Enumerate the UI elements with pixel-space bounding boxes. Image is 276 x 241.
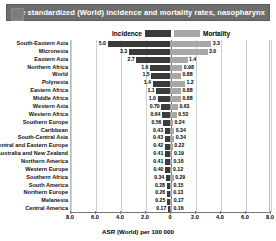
incidence-bar [156, 88, 170, 94]
mortality-value-label: 1.2 [187, 79, 194, 87]
mortality-value-label: 0.34 [176, 127, 186, 135]
incidence-value-label: 0.25 [155, 197, 165, 205]
bar-row: Northern Europe0.260.13 [0, 189, 276, 197]
mortality-bar [170, 49, 208, 55]
mortality-bar [170, 81, 185, 87]
incidence-bar [162, 112, 170, 118]
tick-label: 2.0 [141, 214, 149, 220]
tick-label: 0 [168, 214, 171, 220]
mortality-value-label: 0.16 [174, 205, 184, 213]
bar-row: Western Africa0.640.53 [0, 111, 276, 119]
mortality-value-label: 0.16 [174, 158, 184, 166]
bar-row: Melanesia0.250.17 [0, 197, 276, 205]
mortality-bar [170, 175, 174, 181]
bar-row: South-Central Asia0.430.34 [0, 134, 276, 142]
legend-label-mortality: Mortality [203, 30, 230, 37]
incidence-bar [150, 65, 170, 71]
mortality-bar [170, 159, 172, 165]
mortality-bar [170, 57, 188, 63]
mortality-bar [170, 41, 211, 47]
bar-row: Northern Africa1.60.98 [0, 64, 276, 72]
incidence-value-label: 0.42 [153, 142, 163, 150]
incidence-bar [129, 49, 170, 55]
mortality-value-label: 0.88 [183, 87, 193, 95]
category-label: Eastern Africa [0, 87, 68, 95]
incidence-value-label: 0.28 [155, 182, 165, 190]
bar-row: Caribbean0.430.34 [0, 127, 276, 135]
bar-row: Polynesia1.41.2 [0, 79, 276, 87]
bar-row: Western Asia0.700.63 [0, 103, 276, 111]
mortality-value-label: 0.98 [184, 64, 194, 72]
category-label: Australia and New Zealand [0, 150, 68, 158]
incidence-bar [153, 81, 171, 87]
incidence-value-label: 1.0 [149, 95, 156, 103]
incidence-bar [108, 41, 171, 47]
category-label: Southern Africa [0, 174, 68, 182]
incidence-value-label: 0.41 [153, 150, 163, 158]
tick-label: 6.0 [241, 214, 249, 220]
legend-label-incidence: Incidence [112, 30, 142, 37]
mortality-bar [170, 167, 172, 173]
bar-row: Central and Eastern Europe0.420.22 [0, 142, 276, 150]
incidence-bar [151, 73, 170, 79]
mortality-value-label: 0.63 [179, 103, 189, 111]
incidence-value-label: 1.5 [143, 71, 150, 79]
mortality-bar [170, 120, 173, 126]
category-label: Middle Africa [0, 95, 68, 103]
bar-row: Southern Europe0.560.24 [0, 119, 276, 127]
incidence-value-label: 1.6 [141, 64, 148, 72]
bar-row: Western Europe0.400.12 [0, 166, 276, 174]
mortality-bar [170, 104, 178, 110]
x-axis-title: ASR (World) per 100 000 [0, 228, 276, 235]
mortality-value-label: 3.0 [209, 48, 216, 56]
category-label: South America [0, 182, 68, 190]
legend-swatch-mortality [174, 30, 200, 37]
incidence-value-label: 0.17 [156, 205, 166, 213]
bar-row: Southern Africa0.340.29 [0, 174, 276, 182]
incidence-value-label: 0.34 [154, 174, 164, 182]
bar-row: South-Eastern Asia5.03.3 [0, 40, 276, 48]
category-label: World [0, 71, 68, 79]
incidence-value-label: 3.3 [120, 48, 127, 56]
incidence-value-label: 0.26 [155, 189, 165, 197]
incidence-value-label: 2.7 [128, 56, 135, 64]
incidence-value-label: 0.43 [153, 127, 163, 135]
incidence-bar [161, 104, 170, 110]
incidence-value-label: 0.43 [153, 134, 163, 142]
mortality-value-label: 0.12 [173, 166, 183, 174]
mortality-bar [170, 73, 181, 79]
tick-label: 8.0 [66, 214, 74, 220]
mortality-bar [170, 199, 172, 205]
incidence-value-label: 0.40 [153, 166, 163, 174]
category-label: Central America [0, 205, 68, 213]
mortality-value-label: 0.15 [173, 182, 183, 190]
category-label: Central and Eastern Europe [0, 142, 68, 150]
bar-rows: South-Eastern Asia5.03.3Micronesia3.33.0… [0, 40, 276, 213]
mortality-value-label: 0.24 [175, 119, 185, 127]
category-label: Western Asia [0, 103, 68, 111]
x-axis-ticks: 8.06.04.02.002.04.06.08.0 [70, 214, 270, 224]
incidence-value-label: 0.41 [153, 158, 163, 166]
incidence-value-label: 0.56 [151, 119, 161, 127]
mortality-value-label: 0.19 [174, 150, 184, 158]
bar-row: Middle Africa1.00.88 [0, 95, 276, 103]
incidence-value-label: 0.64 [150, 111, 160, 119]
category-label: Caribbean [0, 127, 68, 135]
bar-row: Northern America0.410.16 [0, 158, 276, 166]
tick-label: 8.0 [266, 214, 274, 220]
category-label: Northern Europe [0, 189, 68, 197]
chart-title-bar: Age standardized (World) incidence and m… [6, 4, 270, 21]
incidence-bar [163, 120, 170, 126]
page-title: Age standardized (World) incidence and m… [11, 8, 265, 17]
tick-label: 2.0 [191, 214, 199, 220]
mortality-value-label: 0.17 [174, 197, 184, 205]
category-label: Northern America [0, 158, 68, 166]
mortality-bar [170, 136, 174, 142]
chart-legend: Incidence Mortality [112, 28, 230, 38]
tick-label: 4.0 [116, 214, 124, 220]
category-label: Western Africa [0, 111, 68, 119]
category-label: Polynesia [0, 79, 68, 87]
mortality-bar [170, 144, 173, 150]
mortality-bar [170, 65, 182, 71]
category-label: Western Europe [0, 166, 68, 174]
